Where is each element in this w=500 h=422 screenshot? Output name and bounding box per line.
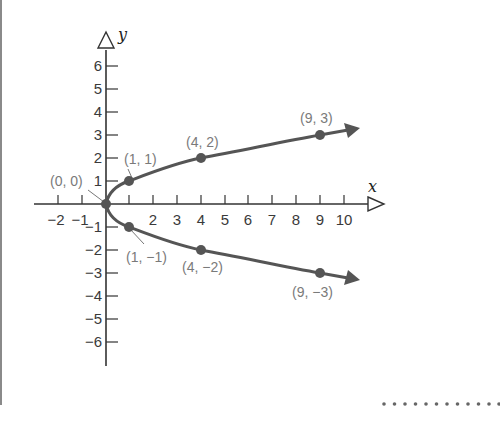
point-1-m1	[124, 222, 134, 232]
y-tick-label: 3	[94, 126, 102, 143]
upper-branch-arrow-icon	[344, 123, 360, 138]
point-0-0	[101, 199, 111, 209]
y-tick-label: −6	[85, 333, 102, 350]
y-tick-label: 6	[94, 57, 102, 74]
y-tick-label: −3	[85, 264, 102, 281]
y-tick-label: −4	[85, 287, 102, 304]
point-label: (4, −2)	[182, 259, 223, 275]
y-tick-label: −2	[85, 241, 102, 258]
x-tick-label: 4	[197, 211, 205, 228]
x-tick-label: 3	[173, 211, 181, 228]
y-tick-label: 4	[94, 103, 102, 120]
point-label: (4, 2)	[186, 134, 219, 150]
point-label: (9, −3)	[292, 284, 333, 300]
x-tick-label: −2	[47, 211, 64, 228]
point-1-1	[124, 176, 134, 186]
point-4-2	[196, 153, 206, 163]
point-label: (1, −1)	[126, 249, 167, 265]
point-label: (9, 3)	[300, 110, 333, 126]
dotted-separator	[382, 402, 500, 406]
x-tick-label: 6	[244, 211, 252, 228]
point-9-m3	[315, 268, 325, 278]
lower-branch-arrow-icon	[344, 270, 360, 285]
x-axis-label: x	[368, 177, 377, 196]
y-tick-label: −5	[85, 310, 102, 327]
upper-branch-curve	[106, 130, 348, 204]
x-tick-label: 7	[268, 211, 276, 228]
point-9-3	[315, 130, 325, 140]
y-tick-label: −1	[85, 218, 102, 235]
chart: x y −2 −1 2 3 4 5 6 7 8 9 10	[0, 0, 500, 422]
point-label: (0, 0)	[50, 173, 83, 189]
point-4-m2	[196, 245, 206, 255]
y-axis-arrow-icon	[98, 32, 114, 48]
x-tick-label: 10	[336, 211, 353, 228]
point-label: (1, 1)	[124, 151, 157, 167]
y-axis-label: y	[117, 25, 128, 44]
y-tick-label: 2	[94, 149, 102, 166]
x-tick-label: 5	[221, 211, 229, 228]
y-tick-label: 1	[94, 172, 102, 189]
x-axis-arrow-icon	[368, 197, 384, 211]
x-tick-label: 8	[292, 211, 300, 228]
x-tick-label: 9	[316, 211, 324, 228]
y-tick-label: 5	[94, 80, 102, 97]
x-tick-label: 2	[149, 211, 157, 228]
